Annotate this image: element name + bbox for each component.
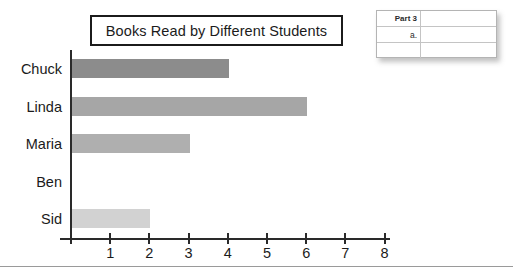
x-axis-tick: [266, 233, 268, 244]
chart-title-box: Books Read by Different Students: [90, 15, 343, 46]
bar-row: Ben: [0, 163, 400, 201]
bar-row: Sid: [0, 200, 400, 238]
x-axis-tick-label: 8: [375, 245, 395, 261]
answer-table-blank-value[interactable]: [421, 43, 496, 59]
chart-title: Books Read by Different Students: [106, 23, 327, 39]
x-axis-tick: [109, 233, 111, 244]
x-axis-tick-label: 2: [139, 245, 159, 261]
x-axis-tick: [227, 233, 229, 244]
table-row: Part 3: [377, 11, 496, 27]
footer-rule: [0, 266, 513, 267]
bar-row: Chuck: [0, 50, 400, 88]
x-axis-tick-label: 1: [100, 245, 120, 261]
bar-category-label: Chuck: [0, 50, 62, 88]
x-axis-tick: [344, 233, 346, 244]
x-axis-tick-label: 7: [335, 245, 355, 261]
bar-category-label: Linda: [0, 88, 62, 126]
answer-table-part-label: Part 3: [377, 11, 421, 26]
bar: [72, 209, 150, 228]
bar-category-label: Maria: [0, 125, 62, 163]
x-axis-tick-label: 3: [179, 245, 199, 261]
x-axis-tick-label: 6: [296, 245, 316, 261]
table-row: a.: [377, 27, 496, 43]
answer-table-item-label: a.: [377, 27, 421, 42]
bar-category-label: Sid: [0, 200, 62, 238]
bar-row: Linda: [0, 88, 400, 126]
x-axis-tick-label: 5: [257, 245, 277, 261]
x-axis-tick: [384, 233, 386, 244]
bar: [72, 134, 190, 153]
bar-category-label: Ben: [0, 163, 62, 201]
worksheet-page: Books Read by Different Students Part 3 …: [0, 0, 513, 276]
x-axis-tick-label: 4: [218, 245, 238, 261]
x-axis-tick: [70, 233, 72, 244]
answer-table-item-value[interactable]: [421, 27, 496, 42]
bar-chart: ChuckLindaMariaBenSid 12345678: [0, 46, 420, 261]
answer-table-part-value[interactable]: [421, 11, 496, 26]
x-axis-tick: [188, 233, 190, 244]
bar: [72, 97, 307, 116]
x-axis-tick: [148, 233, 150, 244]
bar: [72, 59, 229, 78]
x-axis-tick: [305, 233, 307, 244]
bar-row: Maria: [0, 125, 400, 163]
